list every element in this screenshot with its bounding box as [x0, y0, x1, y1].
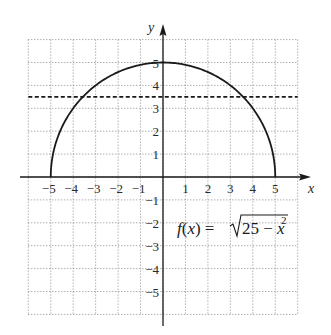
- y-tick-label: 3: [153, 101, 160, 116]
- exponent: 2: [281, 214, 287, 226]
- y-tick-label: −1: [145, 193, 159, 208]
- y-tick-label: 4: [153, 78, 160, 93]
- axes: [20, 24, 311, 326]
- radicand: 25 − x: [242, 219, 285, 238]
- y-tick-label: −3: [145, 239, 159, 254]
- y-tick-label: 5: [153, 56, 160, 71]
- x-tick-label: 4: [250, 181, 257, 196]
- x-tick-label: −1: [132, 181, 146, 196]
- x-tick-label: 3: [227, 181, 234, 196]
- y-tick-label: 2: [153, 124, 160, 139]
- x-tick-label: 1: [182, 181, 189, 196]
- x-tick-label: −3: [87, 181, 101, 196]
- x-axis-label: x: [307, 181, 315, 196]
- x-tick-label: −4: [64, 181, 78, 196]
- semicircle-chart: −5−4−3−2−11234554321−1−2−3−4−5 x y f(x) …: [0, 0, 331, 335]
- x-tick-label: 5: [272, 181, 279, 196]
- y-tick-label: 1: [153, 147, 160, 162]
- y-tick-label: −4: [145, 262, 159, 277]
- x-tick-label: 2: [205, 181, 212, 196]
- function-formula: f(x) =: [177, 219, 214, 238]
- x-tick-label: −2: [109, 181, 123, 196]
- y-tick-label: −5: [145, 285, 159, 300]
- y-axis-label: y: [146, 20, 155, 35]
- x-tick-label: −5: [42, 181, 56, 196]
- y-tick-label: −2: [145, 216, 159, 231]
